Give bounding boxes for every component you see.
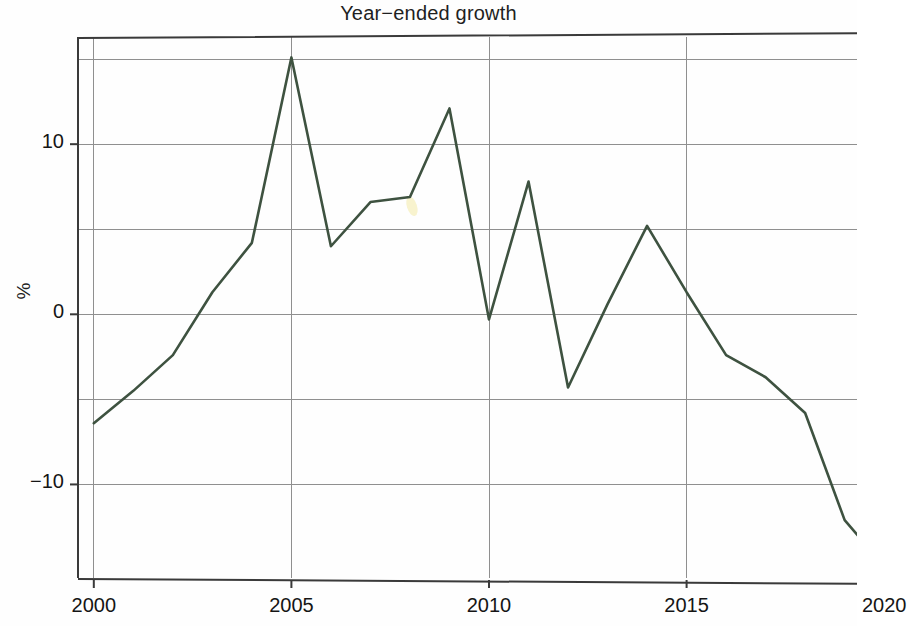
x-tick-label: 2000: [54, 594, 134, 617]
axis-frame: [78, 33, 857, 584]
x-gridlines: [94, 37, 857, 578]
x-tick-label: 2015: [647, 594, 727, 617]
data-line-series: [94, 57, 857, 566]
x-tick-label: 2005: [251, 594, 331, 617]
x-tick-label: 2010: [449, 594, 529, 617]
x-tick-label: 2020: [844, 594, 911, 617]
y-tick-label: −10: [30, 470, 64, 493]
y-tick-label: 0: [53, 300, 64, 323]
data-line: [94, 57, 857, 566]
y-tick-label: 10: [42, 130, 64, 153]
plot-border: [78, 33, 857, 584]
y-gridlines: [78, 59, 857, 484]
axis-ticks: [70, 144, 857, 588]
